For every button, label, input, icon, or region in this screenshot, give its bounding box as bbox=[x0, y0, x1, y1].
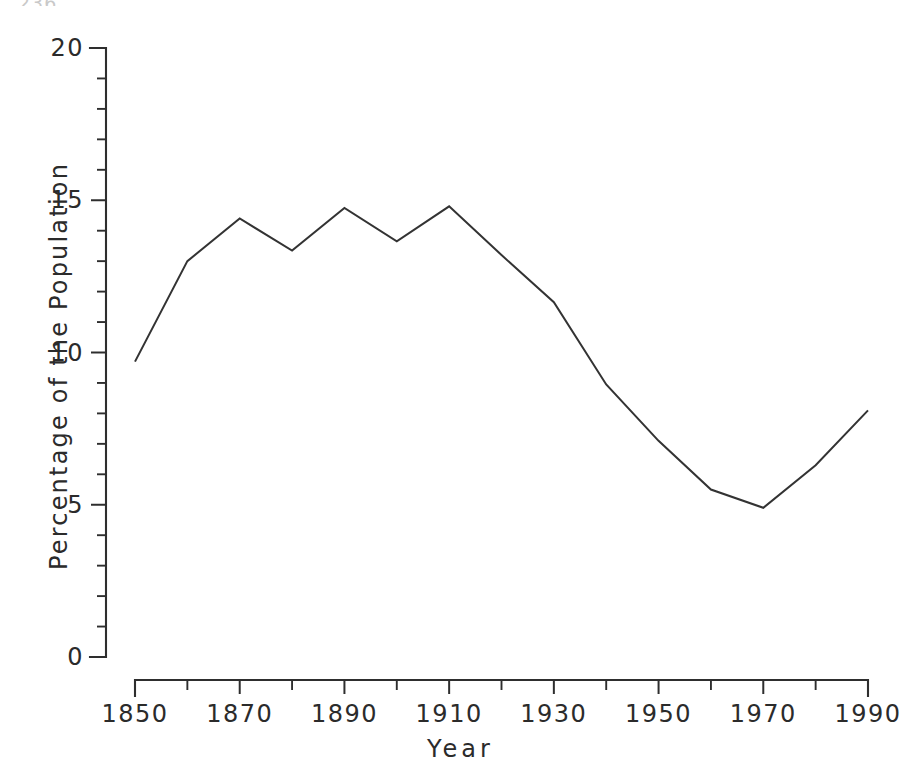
x-tick-label: 1890 bbox=[311, 700, 378, 728]
x-tick-label: 1930 bbox=[520, 700, 587, 728]
x-tick-label: 1990 bbox=[834, 700, 901, 728]
ticks-group bbox=[91, 78, 816, 694]
chart-figure: 236 05101520 185018701890191019301950197… bbox=[0, 0, 921, 772]
x-tick-label: 1970 bbox=[730, 700, 797, 728]
y-tick-label: 20 bbox=[50, 34, 84, 62]
axes-group bbox=[90, 48, 868, 696]
data-series-line bbox=[135, 206, 868, 507]
x-axis-title: Year bbox=[0, 735, 921, 763]
plot-canvas bbox=[0, 0, 921, 772]
x-tick-label: 1850 bbox=[101, 700, 168, 728]
y-axis-title: Percentage of the Population bbox=[45, 61, 73, 671]
x-tick-label: 1870 bbox=[206, 700, 273, 728]
x-tick-label: 1910 bbox=[416, 700, 483, 728]
x-tick-label: 1950 bbox=[625, 700, 692, 728]
